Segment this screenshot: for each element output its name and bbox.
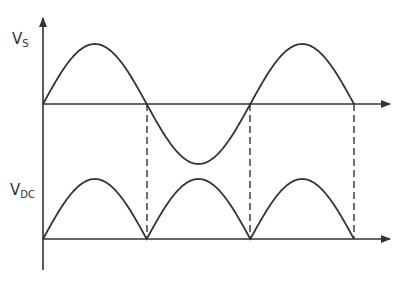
vs-label: VS [12,30,29,49]
rectifier-waveform-diagram: VS VDC [0,0,408,284]
vdc-label: VDC [10,181,35,200]
dashed-guides [147,104,354,239]
vdc-rectified-wave [43,179,354,239]
